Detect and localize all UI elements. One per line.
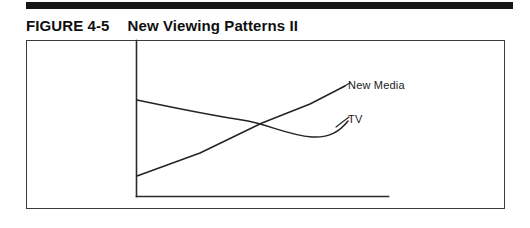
chart-frame (26, 40, 505, 209)
top-rule-divider (26, 2, 513, 9)
figure-number: FIGURE 4-5 (26, 17, 110, 34)
figure-title: New Viewing Patterns II (128, 17, 298, 34)
figure-container: FIGURE 4-5 New Viewing Patterns II New M… (0, 0, 530, 228)
figure-caption: FIGURE 4-5 New Viewing Patterns II (26, 14, 298, 36)
series-label-tv: TV (348, 113, 362, 125)
series-label-new-media: New Media (348, 79, 405, 91)
